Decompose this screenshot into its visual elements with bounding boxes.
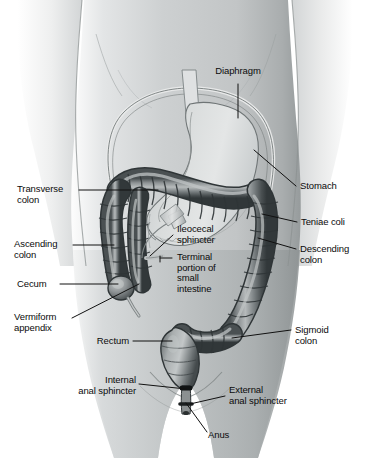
anal-canal: [180, 386, 192, 415]
label-terminal-portion: Terminal portion of small intestine: [177, 252, 231, 294]
label-transverse-colon: Transverse colon: [17, 184, 83, 205]
label-rectum: Rectum: [75, 336, 129, 347]
label-teniae-coli: Teniae coli: [301, 217, 369, 228]
anatomy-diagram: Diaphragm Stomach Teniae coli Descending…: [0, 0, 371, 472]
label-external-anal-sphincter: External anal sphincter: [229, 385, 309, 406]
label-ascending-colon: Ascending colon: [14, 239, 76, 260]
label-diaphragm: Diaphragm: [208, 66, 268, 77]
label-cecum: Cecum: [17, 279, 65, 290]
label-anus: Anus: [208, 430, 248, 441]
label-vermiform-appendix: Vermiform appendix: [14, 312, 76, 333]
label-internal-anal-sphincter: Internal anal sphincter: [48, 375, 136, 396]
label-sigmoid-colon: Sigmoid colon: [295, 325, 361, 346]
label-ileocecal-sphincter: Ileocecal sphincter: [177, 224, 235, 245]
label-stomach: Stomach: [300, 181, 366, 192]
label-descending-colon: Descending colon: [300, 244, 370, 265]
